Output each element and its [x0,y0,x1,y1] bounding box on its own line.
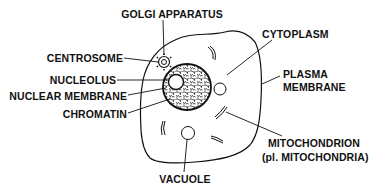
nucleus [163,64,211,110]
label-mitochondrion-line2: (pl. MITOCHONDRIA) [262,151,366,163]
label-plasma-membrane-line2: MEMBRANE [283,81,346,93]
cell-diagram: GOLGI APPARATUS CENTROSOME NUCLEOLUS NUC… [0,0,374,191]
centrosome-shape [157,54,172,71]
leader-golgi [163,20,164,55]
vacuole-shape-2 [182,127,195,140]
label-chromatin: CHROMATIN [30,108,127,120]
label-centrosome: CENTROSOME [30,52,123,64]
nucleolus-shape [169,75,184,90]
leader-centrosome [124,58,158,62]
leader-plasma-membrane [262,76,280,84]
leader-chromatin [128,99,170,113]
label-golgi-apparatus: GOLGI APPARATUS [119,8,225,20]
leader-mitochondrion [226,112,282,136]
leader-nuclear-membrane [128,88,166,95]
label-nuclear-membrane: NUCLEAR MEMBRANE [4,90,127,102]
label-cytoplasm: CYTOPLASM [262,28,329,40]
label-mitochondrion-line1: MITOCHONDRION [262,137,366,149]
label-nucleolus: NUCLEOLUS [30,74,116,86]
label-vacuole: VACUOLE [145,173,225,185]
leader-cytoplasm [227,40,272,75]
label-plasma-membrane-line1: PLASMA [283,68,328,80]
vacuole-shape-1 [214,83,226,95]
leader-vacuole [184,140,187,172]
